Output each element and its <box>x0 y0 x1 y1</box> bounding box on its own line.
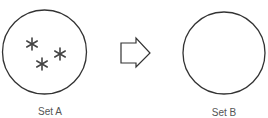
set-b-circle <box>183 12 265 94</box>
asterisk-icon <box>37 58 47 70</box>
arrow-right-icon <box>121 38 150 67</box>
asterisk-icon <box>27 38 37 50</box>
diagram-canvas <box>0 0 268 118</box>
set-b-label: Set B <box>194 107 254 118</box>
set-a-label: Set A <box>20 106 80 117</box>
asterisk-icon <box>55 48 65 60</box>
set-a-circle <box>3 10 87 94</box>
